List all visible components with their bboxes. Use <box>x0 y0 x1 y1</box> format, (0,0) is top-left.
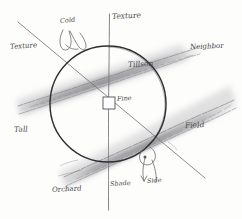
sketch-drawing <box>0 0 242 219</box>
loop-doodle <box>60 30 86 50</box>
sketch-canvas: Texture Cold Texture Neighbor Tillson Fi… <box>0 0 242 219</box>
arrow-loop-doodle <box>140 147 157 182</box>
lower-smudge-band <box>58 100 236 186</box>
vertical-axis-line <box>108 14 109 210</box>
center-square-marker <box>103 97 115 109</box>
